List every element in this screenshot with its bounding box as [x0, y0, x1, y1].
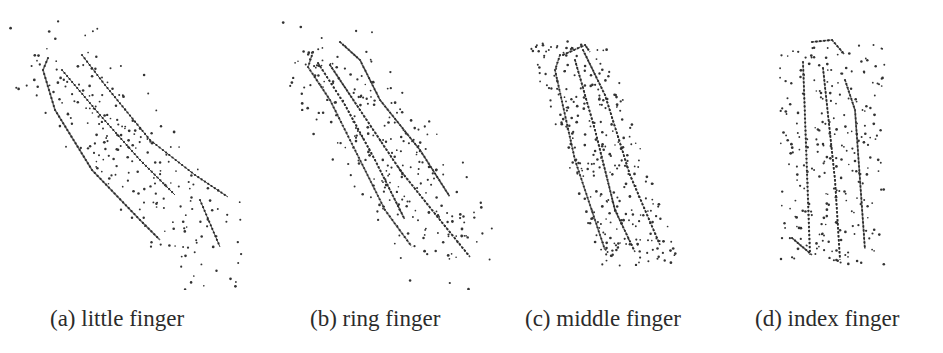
panel-c	[520, 20, 720, 290]
panel-a	[0, 20, 260, 290]
caption-c: (c) middle finger	[525, 306, 681, 332]
point-cloud-c	[520, 20, 720, 290]
caption-d: (d) index finger	[755, 306, 899, 332]
point-cloud-a	[0, 20, 260, 290]
caption-b: (b) ring finger	[310, 306, 440, 332]
panel-b	[270, 20, 500, 290]
point-cloud-d	[730, 20, 943, 290]
point-cloud-b	[270, 20, 500, 290]
panel-d	[730, 20, 943, 290]
caption-a: (a) little finger	[50, 306, 184, 332]
